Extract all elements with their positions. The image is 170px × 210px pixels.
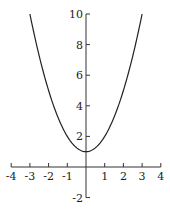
- x-axis-ticks: -4-3-2-11234: [6, 163, 164, 183]
- y-tick-label: 4: [76, 100, 83, 113]
- x-tick-label: 1: [101, 170, 108, 183]
- parabola-chart: -4-3-2-11234 -2246810: [0, 0, 170, 210]
- x-tick-label: 4: [157, 170, 164, 183]
- x-tick-label: -2: [43, 170, 54, 183]
- x-tick-label: -1: [62, 170, 73, 183]
- x-tick-label: 3: [139, 170, 146, 183]
- x-tick-label: -4: [6, 170, 17, 183]
- y-tick-label: 2: [76, 130, 83, 143]
- x-tick-label: -3: [25, 170, 36, 183]
- y-tick-label: -2: [72, 192, 83, 205]
- y-tick-label: 6: [76, 69, 83, 82]
- y-tick-label: 10: [69, 8, 83, 21]
- y-tick-label: 8: [76, 39, 83, 52]
- x-tick-label: 2: [120, 170, 127, 183]
